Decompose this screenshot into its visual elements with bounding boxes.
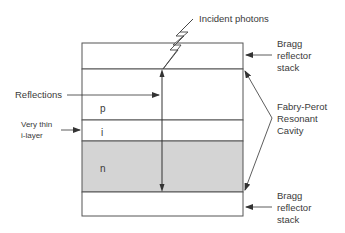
bragg-top-label-line3: stack — [277, 62, 299, 73]
cavity-label-line1: Fabry-Perot — [277, 101, 328, 112]
bragg-bottom-label-line1: Bragg — [277, 190, 302, 201]
cavity-arrow-top — [245, 71, 272, 118]
cavity-arrow-bottom — [245, 118, 272, 190]
cavity-label-line3: Cavity — [277, 125, 304, 136]
layer-bragg-top — [82, 43, 243, 69]
cavity-label-line2: Resonant — [277, 113, 318, 124]
incident-photons-label: Incident photons — [199, 13, 269, 24]
bragg-top-label-line2: reflector — [277, 50, 311, 61]
bragg-top-label-line1: Bragg — [277, 38, 302, 49]
layer-p-label: p — [100, 103, 106, 114]
reflections-label: Reflections — [15, 89, 62, 100]
thin-layer-label-line1: Very thin — [21, 120, 52, 129]
thin-layer-label-line2: i-layer — [21, 131, 43, 140]
bragg-bottom-label-line2: reflector — [277, 202, 311, 213]
layer-bragg-bottom — [82, 192, 243, 216]
layer-i-label: i — [101, 127, 103, 138]
rcpd-diagram: p i n Incident photons Reflections Very … — [0, 0, 345, 233]
layer-n-label: n — [100, 163, 106, 174]
bragg-bottom-label-line3: stack — [277, 214, 299, 225]
